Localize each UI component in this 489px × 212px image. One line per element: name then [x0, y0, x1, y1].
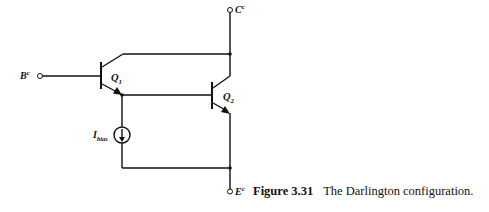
darlington-circuit: Cc Q1 Bc Q2 Ibias Ec [0, 0, 489, 212]
current-source [114, 127, 130, 143]
figure-title: The Darlington configuration. [323, 184, 473, 198]
q1-collector-lead [102, 54, 123, 67]
q2-label: Q2 [223, 91, 235, 105]
collector-terminal [228, 8, 233, 13]
q2-transistor [212, 54, 230, 114]
base-label: Bc [19, 69, 30, 81]
q2-collector-lead [213, 76, 230, 88]
emitter-terminal [228, 189, 233, 194]
collector-label: Cc [235, 3, 245, 15]
ibias-label: Ibias [92, 129, 108, 142]
figure-caption: Figure 3.31The Darlington configuration. [253, 184, 474, 199]
q2-emitter-arrow [221, 106, 230, 114]
figure-number: Figure 3.31 [253, 184, 313, 198]
base-terminal [38, 74, 43, 79]
emitter-label: Ec [234, 185, 245, 197]
q1-label: Q1 [111, 72, 122, 86]
